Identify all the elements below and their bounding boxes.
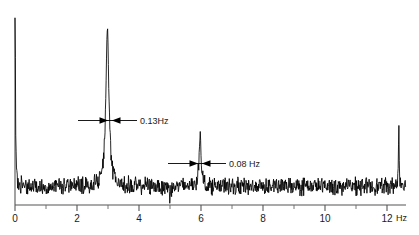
x-axis-tick-label: 8 xyxy=(260,213,266,224)
annotation-arrowhead-right-icon xyxy=(190,160,199,166)
x-axis-tick-label: 4 xyxy=(136,213,142,224)
x-axis-tick-label: 6 xyxy=(198,213,204,224)
x-axis-tick-label: 10 xyxy=(319,213,331,224)
spectrum-figure: 024681012 Hz 0.13Hz 0.08 Hz xyxy=(0,0,419,235)
x-axis-tick-label: 2 xyxy=(74,213,80,224)
annotation-arrowhead-left-icon xyxy=(112,117,121,124)
annotation-arrowhead-right-icon xyxy=(100,117,109,124)
x-axis-tick-label: 12 xyxy=(381,213,393,224)
spectrum-trace xyxy=(15,18,406,203)
annotation-linewidth-3hz: 0.13Hz xyxy=(78,116,169,126)
annotation-label-1: 0.08 Hz xyxy=(229,159,261,169)
x-axis-tick-label: 0 xyxy=(12,213,18,224)
x-axis-ticks xyxy=(15,205,387,211)
annotation-linewidth-6hz: 0.08 Hz xyxy=(168,159,261,169)
spectrum-chart: 024681012 Hz 0.13Hz 0.08 Hz xyxy=(0,0,419,235)
annotation-label-0: 0.13Hz xyxy=(140,116,169,126)
x-axis-tick-labels: 024681012 xyxy=(12,213,393,224)
x-axis-unit-label: Hz xyxy=(396,213,407,223)
annotation-arrowhead-left-icon xyxy=(202,160,211,166)
